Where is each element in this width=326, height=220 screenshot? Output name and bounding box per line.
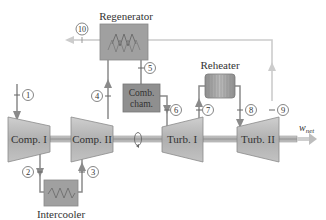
arrow-up-icon [78,162,86,171]
turbine-2: Turb. II [237,117,279,162]
svg-text:3: 3 [91,167,95,177]
arrow-up-icon [104,79,112,88]
svg-text:7: 7 [206,105,210,115]
svg-text:9: 9 [281,105,285,115]
work-output: wnet [297,122,317,145]
compressor-2: Comp. II [71,117,113,162]
comb-chamber-label-2: cham. [130,99,153,109]
reheater-label: Reheater [200,59,239,71]
regenerator: Regenerator [99,10,153,60]
arrow-up-icon [195,98,203,107]
svg-text:6: 6 [174,105,178,115]
comb-chamber-label-1: Comb. [129,88,155,98]
svg-text:10: 10 [78,25,86,34]
svg-text:1: 1 [26,90,30,100]
turbine-1: Turb. I [162,117,203,162]
arrow-left-icon [65,36,74,44]
comp1-label: Comp. I [11,133,47,145]
turb2-label: Turb. II [241,133,275,145]
svg-text:8: 8 [249,105,253,115]
compressor-1: Comp. I [8,117,50,162]
arrow-up-icon [268,62,276,71]
wnet-label: wnet [299,122,315,135]
combustion-chamber: Comb. cham. [123,84,160,112]
gas-turbine-diagram: Regenerator Comb. cham. [0,0,326,220]
regenerator-label: Regenerator [99,10,153,22]
comp2-label: Comp. II [72,133,112,145]
svg-text:2: 2 [26,167,30,177]
state-9: 9 [269,105,289,116]
intercooler: Intercooler [37,180,86,220]
reheater: Reheater [200,59,239,98]
svg-text:5: 5 [148,63,152,73]
turb1-label: Turb. I [167,133,197,145]
intercooler-label: Intercooler [37,208,86,220]
